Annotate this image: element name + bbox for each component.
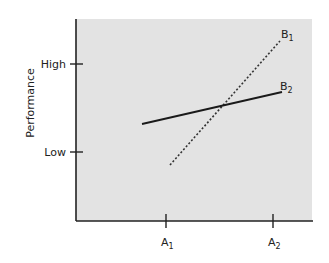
y-axis-label: Performance: [24, 68, 37, 138]
x-tick-label-a1: A1: [161, 236, 174, 251]
interaction-diagram: High Low Performance A1 A2 B1 B2: [0, 0, 329, 263]
plot-area: [76, 19, 312, 221]
y-tick-label-high: High: [41, 58, 66, 71]
y-tick-label-low: Low: [44, 146, 66, 159]
x-tick-label-a2: A2: [268, 236, 281, 251]
